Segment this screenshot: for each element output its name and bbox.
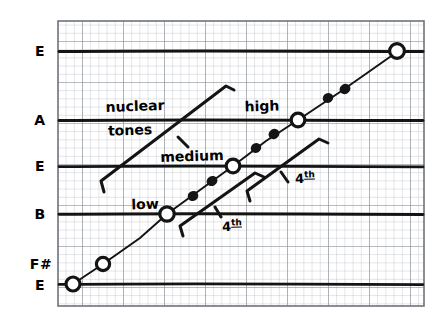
axis-label-e-mid: E xyxy=(35,158,45,174)
annotation-medium: medium xyxy=(160,147,224,165)
annotation-low: low xyxy=(131,196,159,213)
annotation-fourth-lower: 4th xyxy=(222,217,242,234)
axis-label-e-top: E xyxy=(35,43,45,59)
axis-label-fsharp: F# xyxy=(30,256,52,272)
axis-label-e-bottom: E xyxy=(35,277,45,293)
fourth-lower-text: 4th xyxy=(222,219,242,235)
fourth-upper-text: 4th xyxy=(295,171,315,187)
figure-canvas: E A E B F# E nuclear tones high medium l… xyxy=(0,0,445,322)
axis-label-a: A xyxy=(34,112,45,128)
axis-label-b: B xyxy=(34,206,45,222)
annotation-nuclear: nuclear xyxy=(105,97,164,115)
annotation-fourth-upper: 4th xyxy=(295,169,315,186)
annotation-tones: tones xyxy=(108,121,153,139)
annotation-high: high xyxy=(244,97,279,114)
